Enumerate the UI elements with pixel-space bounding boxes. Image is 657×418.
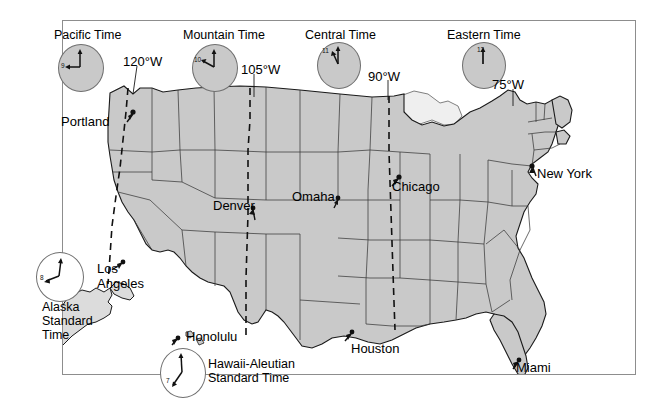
meridian-120w bbox=[133, 66, 137, 94]
zone-title-pacific: Pacific Time bbox=[54, 28, 121, 42]
zone-title-mountain: Mountain Time bbox=[183, 28, 265, 42]
inset-label-alaska: Alaska Standard Time bbox=[42, 300, 93, 342]
inset-label-hawaii: Hawaii-Aleutian Standard Time bbox=[208, 357, 295, 385]
longitude-label-90w: 90°W bbox=[368, 70, 400, 85]
clock-hour-central: 11 bbox=[322, 47, 329, 54]
city-label-denver: Denver bbox=[213, 199, 255, 214]
clock-hour-hawaii: 7 bbox=[166, 377, 170, 384]
time-zone-map-figure: Pacific Time Mountain Time Central Time … bbox=[0, 0, 657, 418]
city-label-honolulu: Honolulu bbox=[186, 330, 237, 345]
clock-hands-mountain bbox=[192, 44, 236, 90]
zone-title-central: Central Time bbox=[305, 28, 376, 42]
longitude-label-75w: 75°W bbox=[492, 78, 524, 93]
longitude-label-120w: 120°W bbox=[123, 55, 162, 70]
clock-hour-alaska: 8 bbox=[40, 274, 44, 281]
city-label-los-angeles: Los Angeles bbox=[97, 262, 144, 291]
zone-title-eastern: Eastern Time bbox=[447, 28, 521, 42]
marker-honolulu bbox=[172, 336, 180, 345]
northeast-coast bbox=[556, 130, 570, 144]
clock-hands-hawaii bbox=[160, 348, 204, 396]
city-label-chicago: Chicago bbox=[392, 180, 440, 195]
clock-hour-pacific: 9 bbox=[61, 62, 65, 69]
clock-hour-eastern: 12 bbox=[477, 46, 484, 53]
city-label-houston: Houston bbox=[351, 342, 399, 357]
city-label-miami: Miami bbox=[516, 361, 551, 376]
clock-hour-mountain: 10 bbox=[194, 56, 201, 63]
aleutian-islands bbox=[30, 362, 54, 374]
city-label-omaha: Omaha bbox=[292, 190, 335, 205]
city-label-new-york: New York bbox=[537, 167, 592, 182]
longitude-label-105w: 105°W bbox=[241, 63, 280, 78]
city-label-portland: Portland bbox=[61, 115, 109, 130]
